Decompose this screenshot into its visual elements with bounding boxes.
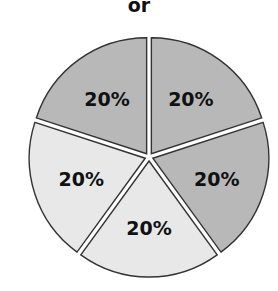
slice-label: 20% [168,88,213,110]
slice-label: 20% [58,168,103,190]
slice-label: 20% [194,168,239,190]
slice-label: 20% [84,88,129,110]
pie-chart: 20%20%20%20%20% [0,0,278,291]
slice-label: 20% [126,217,171,239]
